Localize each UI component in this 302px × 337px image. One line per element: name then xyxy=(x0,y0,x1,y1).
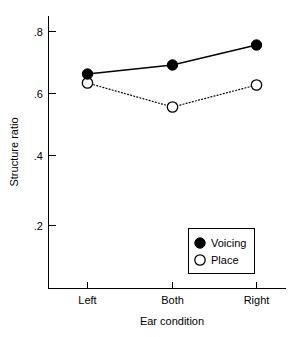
chart-figure: .8 .6 .4 .2 Left Both Right Ear conditio… xyxy=(0,0,302,337)
datapoint-voicing-right xyxy=(251,40,261,50)
legend-label-place: Place xyxy=(211,254,239,266)
y-tick-label-0.2: .2 xyxy=(34,220,43,232)
y-tick-label-0.4: .4 xyxy=(34,150,43,162)
line-chart-canvas: .8 .6 .4 .2 Left Both Right Ear conditio… xyxy=(0,0,302,337)
legend-box xyxy=(189,229,255,274)
legend-label-voicing: Voicing xyxy=(211,237,246,249)
datapoint-voicing-both xyxy=(167,60,177,70)
y-tick-label-0.8: .8 xyxy=(34,26,43,38)
y-axis-tick-labels: .8 .6 .4 .2 xyxy=(34,26,43,232)
y-axis-ticks xyxy=(49,32,56,226)
series-place xyxy=(82,78,261,112)
legend-marker-place-icon xyxy=(195,255,205,265)
y-axis-title: Structure ratio xyxy=(8,117,20,186)
x-tick-label-both: Both xyxy=(161,294,184,306)
x-axis-tick-labels: Left Both Right xyxy=(78,294,269,306)
y-tick-label-0.6: .6 xyxy=(34,88,43,100)
x-axis-title: Ear condition xyxy=(140,315,204,327)
x-axis-ticks xyxy=(88,282,257,289)
datapoint-place-both xyxy=(167,102,177,112)
datapoint-voicing-left xyxy=(82,69,92,79)
x-tick-label-right: Right xyxy=(244,294,270,306)
x-tick-label-left: Left xyxy=(78,294,96,306)
chart-legend: Voicing Place xyxy=(189,229,255,274)
datapoint-place-right xyxy=(251,80,261,90)
series-voicing xyxy=(82,40,261,79)
legend-marker-voicing-icon xyxy=(195,238,205,248)
